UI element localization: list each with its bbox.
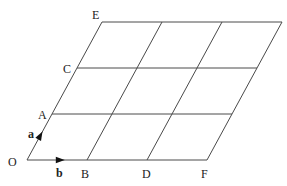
lattice-diagram: E C A O B D F a b bbox=[0, 0, 287, 186]
label-E: E bbox=[92, 8, 99, 22]
grid-col-line bbox=[87, 22, 162, 160]
arrow-head-a-icon bbox=[35, 131, 42, 140]
basis-vectors bbox=[35, 131, 64, 163]
label-vector-b: b bbox=[56, 166, 63, 180]
parallelogram-grid bbox=[27, 22, 282, 160]
label-C: C bbox=[63, 62, 71, 76]
label-O: O bbox=[8, 155, 17, 169]
label-A: A bbox=[38, 108, 47, 122]
grid-col-line bbox=[147, 22, 222, 160]
label-B: B bbox=[81, 167, 89, 181]
label-D: D bbox=[142, 167, 151, 181]
arrow-head-b-icon bbox=[56, 157, 65, 163]
grid-col-line bbox=[207, 22, 282, 160]
label-vector-a: a bbox=[28, 127, 34, 141]
label-F: F bbox=[201, 167, 208, 181]
